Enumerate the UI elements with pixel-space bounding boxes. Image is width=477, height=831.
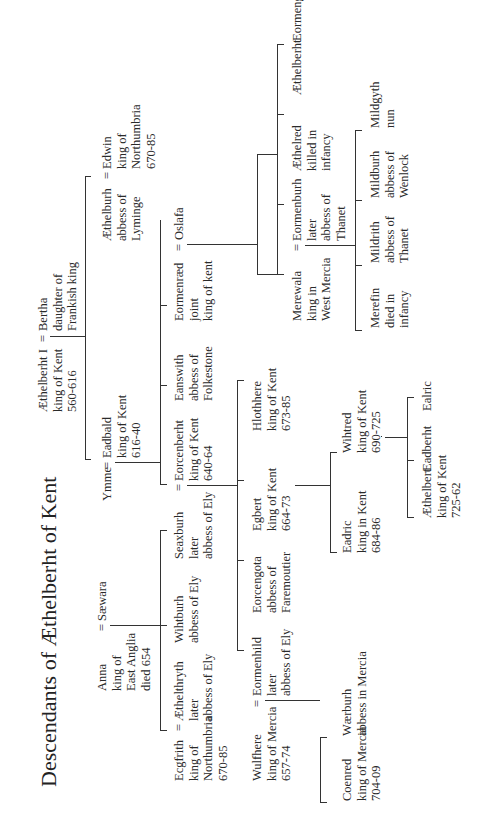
descent-line <box>407 517 414 518</box>
node-aethelred: Æthelred killed in infancy <box>290 125 334 171</box>
node-oslafa: Oslafa <box>172 207 187 240</box>
descent-line <box>160 484 167 485</box>
node-eormengyth: Eormengyth <box>290 0 305 41</box>
node-eadberht: Eadberht <box>420 426 435 471</box>
descent-line <box>265 700 320 701</box>
descent-line <box>237 650 244 651</box>
descent-line <box>237 380 244 381</box>
node-saewara: Sæwara <box>95 581 110 621</box>
node-aethelburh: Æthelburh abbess of Lyminge <box>100 188 144 241</box>
descent-line <box>257 154 277 155</box>
node-aethelthryth: Æthelthryth later abbess of Ely <box>172 654 216 721</box>
node-mildgyth: Mildgyth nun <box>368 81 397 128</box>
descent-line <box>277 44 284 45</box>
descent-line <box>355 130 362 131</box>
node-wihtburh: Wihtburh abbess of Ely <box>172 576 201 643</box>
family-tree-diagram: Descendants of Æthelberht of Kent Æthelb… <box>0 0 477 831</box>
node-waerburh: Wærburh abbess in Mercia <box>340 651 369 736</box>
descent-line <box>330 452 337 453</box>
node-mildburh: Mildburh abbess of Wenlock <box>368 151 412 198</box>
sibling-line <box>355 131 356 331</box>
node-anna: Anna king of East Anglia died 654 <box>95 633 153 691</box>
descent-line <box>115 462 160 463</box>
node-aethelberht2: Æthelberht <box>290 39 305 95</box>
node-bertha: Bertha daughter of Frankish king <box>36 262 80 331</box>
descent-line <box>320 802 327 803</box>
marriage-symbol: = <box>100 172 114 179</box>
diagram-title: Descendants of Æthelberht of Kent <box>36 477 62 787</box>
descent-line <box>355 330 362 331</box>
node-eorcenberht: Eorcenberht king of Kent 640-64 <box>172 418 216 481</box>
node-wulfhere: Wulfhere king of Mercia 657-74 <box>250 707 294 781</box>
sibling-line <box>160 531 161 731</box>
descent-line <box>160 305 167 306</box>
node-mildrith: Mildrith abbess of Thanet <box>368 216 412 263</box>
node-egbert: Egbert king of Kent 664-73 <box>250 468 294 531</box>
sibling-line <box>330 453 331 553</box>
marriage-symbol: = <box>95 624 109 631</box>
node-eadbald: Eadbald king of Kent 616-40 <box>100 395 144 458</box>
node-eadric: Eadric king in Kent 684-86 <box>340 491 384 554</box>
node-hlothhere: Hlothhere king of Kent 673-85 <box>250 368 294 431</box>
node-eormenburh: Eormenburh later abbess of Thanet <box>290 179 348 241</box>
descent-line <box>85 176 91 177</box>
node-eorcengota: Eorcengota abbess of Faremoutier <box>250 552 294 613</box>
descent-line <box>385 437 407 438</box>
descent-line <box>381 436 382 437</box>
sibling-line <box>277 45 278 275</box>
node-aethelberht: Æthelberht I king of Kent 560-616 <box>36 349 80 412</box>
node-wihtred: Wihtred king of Kent 690-725 <box>340 390 384 453</box>
descent-line <box>160 385 167 386</box>
descent-line <box>187 485 237 486</box>
descent-line <box>407 460 414 461</box>
node-eormenhild: Eormenhild later abbess of Ely <box>250 629 294 696</box>
descent-line <box>355 200 362 201</box>
sibling-line <box>237 381 238 651</box>
marriage-symbol: = <box>172 244 186 251</box>
node-seaxburh: Seaxburh later abbess of Ely <box>172 492 216 559</box>
descent-line <box>407 397 414 398</box>
marriage-symbol: = <box>36 335 50 342</box>
node-edwin: Edwin king of Northumbria 670-85 <box>100 104 158 169</box>
descent-line <box>160 730 167 731</box>
descent-line <box>330 552 337 553</box>
descent-line <box>160 530 167 531</box>
descent-line <box>187 244 257 245</box>
descent-line <box>305 245 355 246</box>
marriage-symbol: = <box>100 462 114 469</box>
node-eormenraed: Eormenræd joint king of kent <box>172 261 216 321</box>
sibling-line <box>320 738 321 803</box>
descent-line <box>320 737 327 738</box>
descent-line <box>85 459 91 460</box>
node-ymme: Ymme <box>100 467 115 501</box>
marriage-symbol: = <box>172 724 186 731</box>
sibling-line <box>85 177 86 460</box>
descent-line <box>50 336 85 337</box>
marriage-symbol: = <box>290 244 304 251</box>
descent-line <box>110 625 160 626</box>
node-eanswith: Eanswith abbess of Folkestone <box>172 346 216 401</box>
descent-line <box>355 265 362 266</box>
node-merefin: Merefin died in infancy <box>368 288 412 328</box>
node-ealric: Ealric <box>420 381 435 411</box>
node-coenred: Coenred king of Mercia 704-09 <box>340 727 384 801</box>
descent-line <box>277 204 284 205</box>
sibling-line <box>407 398 408 518</box>
sibling-line <box>160 220 161 485</box>
marriage-symbol: = <box>172 484 186 491</box>
descent-line <box>237 560 244 561</box>
marriage-symbol: = <box>250 700 264 707</box>
node-merewala: Merewala king in West Mercia <box>290 258 334 321</box>
descent-line <box>257 274 284 275</box>
sibling-line <box>257 155 258 275</box>
descent-line <box>295 485 330 486</box>
descent-line <box>160 625 167 626</box>
descent-line <box>237 480 244 481</box>
descent-line <box>277 114 284 115</box>
